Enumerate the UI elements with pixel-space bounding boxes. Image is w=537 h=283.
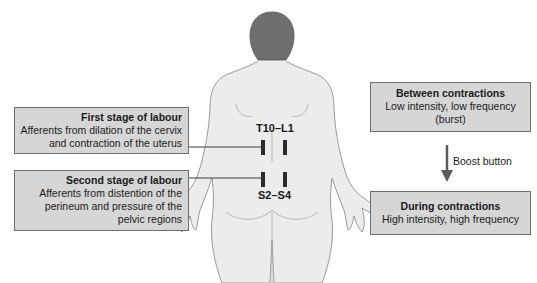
boost-button-label: Boost button	[453, 155, 512, 167]
second-stage-line-3: pelvic regions	[19, 213, 182, 226]
during-contractions-line-1: High intensity, high frequency	[375, 213, 526, 226]
between-contractions-line-1: Low intensity, low frequency	[375, 100, 526, 113]
first-stage-line-2: and contraction of the uterus	[19, 137, 182, 150]
first-stage-line-1: Afferents from dilation of the cervix	[19, 124, 182, 137]
first-stage-title: First stage of labour	[19, 111, 182, 124]
second-stage-line-1: Afferents from distention of the	[19, 187, 182, 200]
spinal-label-t10-l1: T10–L1	[256, 122, 294, 134]
electrode-upper-right	[283, 140, 287, 155]
between-contractions-title: Between contractions	[375, 87, 526, 100]
between-contractions-box: Between contractions Low intensity, low …	[370, 82, 531, 132]
between-contractions-line-2: (burst)	[375, 113, 526, 126]
spinal-label-s2-s4: S2–S4	[258, 189, 291, 201]
first-stage-box: First stage of labour Afferents from dil…	[14, 107, 189, 154]
second-stage-title: Second stage of labour	[19, 174, 182, 187]
second-stage-box: Second stage of labour Afferents from di…	[14, 170, 189, 231]
boost-arrow-head	[441, 170, 453, 182]
during-contractions-title: During contractions	[375, 200, 526, 213]
second-stage-line-2: perineum and pressure of the	[19, 200, 182, 213]
electrode-lower-right	[283, 172, 287, 187]
head-hair	[250, 12, 294, 60]
electrode-lower-left	[261, 172, 265, 187]
during-contractions-box: During contractions High intensity, high…	[370, 191, 531, 235]
